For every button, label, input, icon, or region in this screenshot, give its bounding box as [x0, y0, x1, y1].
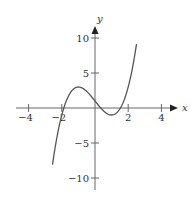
x-axis-arrow-icon: [170, 105, 178, 112]
y-tick-label: −10: [68, 173, 89, 184]
x-ticks: −4−224: [18, 104, 164, 123]
x-tick-label: 4: [158, 112, 164, 123]
y-tick-label: −5: [74, 138, 89, 149]
y-axis-label: y: [96, 13, 103, 24]
y-tick-label: 10: [76, 33, 89, 44]
axes: [16, 26, 178, 190]
x-axis-label: x: [182, 102, 188, 113]
chart: x y −4−224 105−5−10: [0, 0, 191, 199]
y-tick-label: 5: [83, 68, 89, 79]
y-axis-arrow-icon: [92, 26, 99, 34]
x-tick-label: 2: [125, 112, 131, 123]
x-tick-label: −2: [51, 112, 66, 123]
x-tick-label: −4: [18, 112, 33, 123]
